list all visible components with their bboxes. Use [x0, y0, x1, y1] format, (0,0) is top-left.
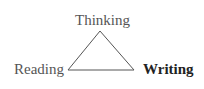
node-label-writing: Writing: [143, 62, 194, 77]
node-label-thinking: Thinking: [75, 13, 130, 28]
node-label-reading: Reading: [14, 62, 64, 77]
triangle-outline: [68, 31, 134, 70]
